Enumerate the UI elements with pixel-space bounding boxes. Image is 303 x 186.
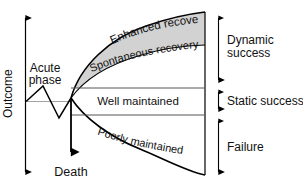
y-axis-label: Outcome <box>1 69 15 118</box>
acute-phase-label-line2: phase <box>29 73 62 87</box>
acute-phase-trace <box>26 86 71 118</box>
failure-label: Failure <box>227 140 264 154</box>
acute-phase-zigzag <box>26 86 71 118</box>
dynamic-success-label-line2: success <box>227 46 270 60</box>
outcome-trajectory-diagram: Enhanced recovery Spontaneous recovery W… <box>0 0 303 186</box>
well-maintained-label: Well maintained <box>97 95 179 107</box>
death-label: Death <box>54 165 87 179</box>
static-success-label: Static success <box>227 94 303 108</box>
dynamic-success-label-line1: Dynamic <box>227 33 274 47</box>
diagram-canvas: Enhanced recovery Spontaneous recovery W… <box>0 0 303 186</box>
